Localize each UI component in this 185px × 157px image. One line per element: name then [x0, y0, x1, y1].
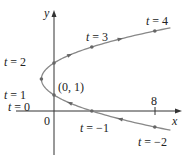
y-axis-label: y [43, 6, 50, 20]
direction-arrows [66, 36, 123, 121]
x-axis-arrow-icon [175, 109, 182, 114]
t-label: t = 4 [146, 14, 168, 28]
t-label: t = −1 [80, 121, 109, 135]
t-label: t = 0 [8, 100, 30, 114]
x-tick-label: 8 [151, 94, 157, 108]
curve-point [90, 109, 94, 113]
point-label: (0, 1) [58, 80, 84, 94]
parametric-curve-diagram: y x 0 8 (0, 1) t = 4t = 3t = 2t = 1t = 0… [0, 0, 185, 157]
curve-point [153, 29, 157, 33]
x-axis-label: x [171, 114, 178, 128]
direction-arrow-icon [67, 52, 74, 58]
t-label: t = −2 [138, 135, 167, 149]
t-labels: t = 4t = 3t = 2t = 1t = 0t = −1t = −2 [4, 14, 168, 149]
y-axis-arrow-icon [52, 10, 57, 17]
curve-point [52, 93, 56, 97]
origin-label: 0 [44, 114, 50, 128]
curve-point [52, 61, 56, 65]
curve-point [90, 45, 94, 49]
t-label: t = 3 [86, 30, 108, 44]
curve-points [40, 29, 157, 129]
curve-point [40, 77, 44, 81]
direction-arrow-icon [66, 100, 73, 106]
curve-point [153, 125, 157, 129]
t-label: t = 2 [4, 55, 26, 69]
